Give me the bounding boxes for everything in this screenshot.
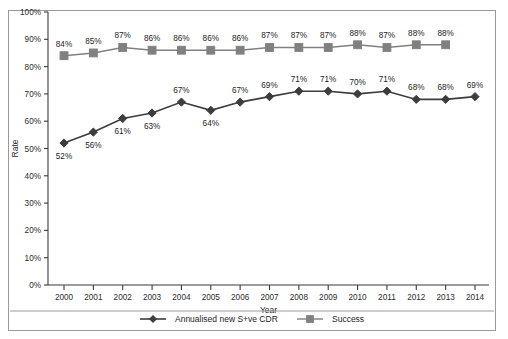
data-point [148,46,156,54]
data-point-label: 52% [56,152,72,161]
legend-marker-diamond-icon [149,315,157,323]
data-point-label: 61% [115,127,131,136]
data-point [207,106,215,114]
data-point [119,44,127,52]
data-point-label: 71% [320,75,336,84]
data-point [354,41,362,49]
x-tick-label: 2014 [466,293,485,302]
x-tick-label: 2010 [348,293,367,302]
data-point-label: 86% [203,34,219,43]
data-point [236,98,244,106]
x-tick-label: 2002 [114,293,133,302]
data-point [295,44,303,52]
data-point [207,46,215,54]
data-point-label: 87% [320,31,336,40]
data-point [177,98,185,106]
y-tick-label: 20% [25,226,41,235]
data-point-label: 87% [291,31,307,40]
data-point [60,139,68,147]
y-tick-label: 10% [25,254,41,263]
y-tick-label: 30% [25,199,41,208]
y-tick-label: 80% [25,63,41,72]
x-tick-label: 2012 [407,293,426,302]
chart-figure: 0%10%20%30%40%50%60%70%80%90%100%2000200… [0,0,508,339]
x-tick-label: 2004 [172,293,191,302]
y-tick-label: 70% [25,90,41,99]
x-tick-label: 2001 [84,293,103,302]
data-point [442,41,450,49]
series-success: 84%85%87%86%86%86%86%87%87%87%88%87%88%8… [56,29,454,60]
data-point [471,93,479,101]
data-point-label: 85% [85,37,101,46]
x-tick-label: 2005 [202,293,221,302]
x-tick-label: 2000 [55,293,74,302]
legend-marker-square-icon [306,315,314,323]
data-point [412,95,420,103]
data-point-label: 71% [291,75,307,84]
x-tick-label: 2009 [319,293,338,302]
legend-label-success: Success [332,314,364,324]
data-point [148,109,156,117]
data-point-label: 88% [349,29,365,38]
data-point-label: 88% [437,29,453,38]
data-point-label: 84% [56,40,72,49]
line-chart: 0%10%20%30%40%50%60%70%80%90%100%2000200… [0,0,508,339]
x-tick-label: 2013 [437,293,456,302]
data-point-label: 86% [232,34,248,43]
data-point [266,44,274,52]
x-tick-label: 2007 [260,293,279,302]
data-point-label: 71% [379,75,395,84]
data-point-label: 64% [203,119,219,128]
data-point [442,95,450,103]
data-point-label: 68% [437,83,453,92]
y-tick-label: 40% [25,172,41,181]
data-point-label: 87% [379,31,395,40]
data-point [89,128,97,136]
data-point [383,87,391,95]
y-tick-label: 0% [29,281,41,290]
data-point-label: 69% [467,81,483,90]
data-point-label: 87% [261,31,277,40]
data-point-label: 69% [261,81,277,90]
data-point [353,90,361,98]
data-point-label: 87% [115,31,131,40]
x-tick-label: 2003 [143,293,162,302]
data-point-label: 86% [144,34,160,43]
x-tick-label: 2008 [290,293,309,302]
y-tick-label: 50% [25,145,41,154]
data-point [412,41,420,49]
data-point-label: 88% [408,29,424,38]
y-tick-label: 100% [20,8,41,17]
y-tick-label: 90% [25,35,41,44]
data-point [89,49,97,57]
data-point [178,46,186,54]
data-point [295,87,303,95]
data-point-label: 68% [408,83,424,92]
data-point-label: 86% [173,34,189,43]
data-point-label: 56% [85,141,101,150]
data-point [383,44,391,52]
data-point [265,93,273,101]
data-point [119,114,127,122]
y-axis-title: Rate [10,139,20,157]
data-point-label: 67% [232,86,248,95]
data-point-label: 67% [173,86,189,95]
series-cdr: 52%56%61%63%67%64%67%69%71%71%70%71%68%6… [56,75,483,161]
data-point [236,46,244,54]
data-point [324,44,332,52]
x-tick-label: 2006 [231,293,250,302]
y-tick-label: 60% [25,117,41,126]
data-point-label: 63% [144,122,160,131]
data-point [60,52,68,60]
data-point [324,87,332,95]
legend-label-cdr: Annualised new S+ve CDR [175,314,278,324]
data-point-label: 70% [349,78,365,87]
chart-legend: Annualised new S+ve CDRSuccess [10,311,494,324]
x-tick-label: 2011 [378,293,396,302]
